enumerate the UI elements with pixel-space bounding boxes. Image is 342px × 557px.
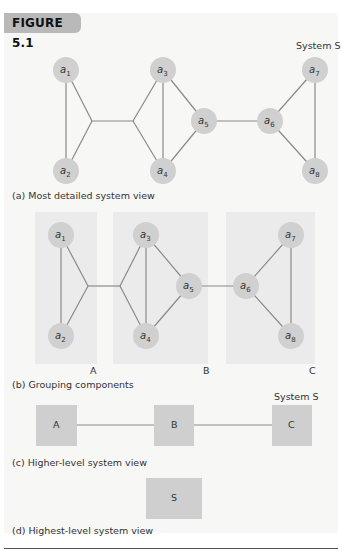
box-label-s: S — [171, 492, 177, 503]
caption-c: (c) Higher-level system view — [12, 457, 147, 468]
caption-d: (d) Highest-level system view — [12, 525, 153, 536]
caption-a: (a) Most detailed system view — [12, 190, 155, 201]
system-diagram: a1 a2 a3 a4 a5 a6 a7 a8 — [0, 0, 342, 557]
group-label-b: B — [203, 365, 210, 376]
system-label-a: System S — [296, 40, 340, 51]
system-label-c: System S — [274, 391, 318, 402]
box-label-b: B — [171, 419, 178, 430]
box-label-a: A — [53, 419, 60, 430]
caption-b: (b) Grouping components — [12, 379, 134, 390]
bottom-rule — [4, 548, 338, 549]
box-label-c: C — [288, 419, 295, 430]
group-label-a: A — [90, 365, 97, 376]
panel-b-groups — [35, 212, 315, 364]
group-label-c: C — [309, 365, 316, 376]
